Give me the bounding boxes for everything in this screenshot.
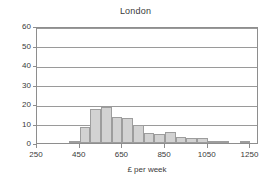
y-axis-tick-label: 20 — [3, 101, 31, 109]
y-axis-tick-mark — [33, 47, 36, 48]
bars-series — [37, 28, 257, 143]
histogram-bar — [101, 107, 112, 143]
x-axis-tick-mark — [36, 144, 37, 148]
y-axis-tick-label: 0 — [3, 140, 31, 148]
x-axis-tick-label: 1250 — [229, 150, 269, 159]
histogram-bar — [197, 138, 208, 143]
histogram-bar — [240, 141, 251, 143]
histogram-bar — [144, 133, 155, 143]
histogram-chart: London 0102030405060 2504506508501050125… — [0, 0, 271, 192]
x-axis-tick-mark — [207, 144, 208, 148]
histogram-bar — [133, 125, 144, 143]
y-axis-tick-label: 10 — [3, 121, 31, 129]
histogram-bar — [122, 118, 133, 143]
y-axis-tick-label: 30 — [3, 82, 31, 90]
histogram-bar — [186, 138, 197, 143]
x-axis-tick-label: 1050 — [187, 150, 227, 159]
histogram-bar — [165, 132, 176, 143]
chart-title: London — [0, 6, 271, 16]
histogram-bar — [112, 117, 123, 143]
x-axis-tick-label: 450 — [59, 150, 99, 159]
x-axis-tick-label: 250 — [16, 150, 56, 159]
y-axis-tick-label: 40 — [3, 62, 31, 70]
y-axis-tick-mark — [33, 27, 36, 28]
plot-area — [36, 27, 258, 144]
histogram-bar — [80, 127, 91, 143]
y-axis-tick-label: 60 — [3, 23, 31, 31]
y-axis-tick-mark — [33, 86, 36, 87]
x-axis-tick-mark — [164, 144, 165, 148]
y-axis-tick-mark — [33, 66, 36, 67]
histogram-bar — [176, 137, 187, 143]
histogram-bar — [208, 141, 219, 143]
x-axis-tick-label: 850 — [144, 150, 184, 159]
histogram-bar — [90, 109, 101, 143]
x-axis-tick-mark — [79, 144, 80, 148]
y-axis-tick-mark — [33, 125, 36, 126]
x-axis-tick-mark — [249, 144, 250, 148]
x-axis-tick-label: 650 — [101, 150, 141, 159]
histogram-bar — [154, 134, 165, 143]
y-axis-tick-label: 50 — [3, 43, 31, 51]
x-axis-title: £ per week — [36, 165, 258, 174]
histogram-bar — [69, 141, 80, 143]
y-axis-tick-mark — [33, 105, 36, 106]
x-axis-tick-mark — [121, 144, 122, 148]
histogram-bar — [218, 141, 229, 143]
